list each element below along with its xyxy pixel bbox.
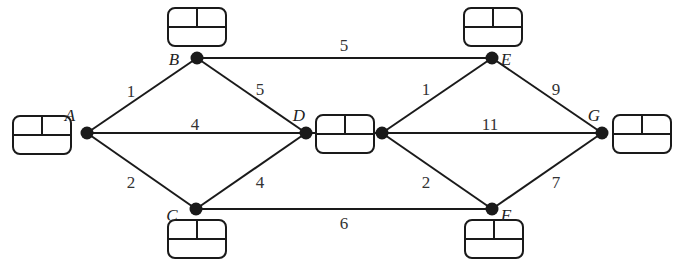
edge-C-D [196,133,306,209]
edge-weight-C-F: 6 [340,214,349,233]
node-E [486,52,499,65]
node-label-F: F [500,206,512,225]
node-D [300,127,313,140]
edge-A-B [87,58,197,133]
node-label-E: E [500,50,512,69]
edge-weight-B-D: 5 [256,80,265,99]
node-time-box-E [464,8,522,46]
node-label-C: C [166,206,178,225]
edge-weight-C-D: 4 [256,173,265,192]
node-time-box-F [465,220,523,258]
edge-D2-F [382,133,492,209]
edge-weight-D2-F: 2 [422,173,431,192]
node-D2 [376,127,389,140]
node-time-box-G [613,115,671,153]
edge-weight-E-G: 9 [552,80,561,99]
edge-A-C [87,133,196,209]
node-label-D: D [292,106,306,125]
edge-E-G [492,58,602,133]
edge-weight-B-E: 5 [340,36,349,55]
node-label-G: G [588,106,600,125]
node-A [81,127,94,140]
edge-F-G [492,133,602,209]
edge-B-D [197,58,306,133]
node-time-box-C [168,220,226,258]
node-label-B: B [169,50,180,69]
network-diagram: 1425456111297ABCDEFG [0,0,680,268]
node-time-box-B [168,8,226,46]
node-time-box-A [13,116,71,154]
node-C [190,203,203,216]
node-F [486,203,499,216]
edge-weight-D2-E: 1 [422,80,431,99]
node-B [191,52,204,65]
node-label-A: A [64,106,76,125]
edge-weight-F-G: 7 [552,173,561,192]
edge-weight-D2-G: 11 [482,115,498,134]
edge-weight-A-D: 4 [191,115,200,134]
node-G [596,127,609,140]
node-time-box-D [316,115,374,153]
edge-weight-A-C: 2 [127,173,136,192]
edge-D2-E [382,58,492,133]
edge-weight-A-B: 1 [127,82,136,101]
